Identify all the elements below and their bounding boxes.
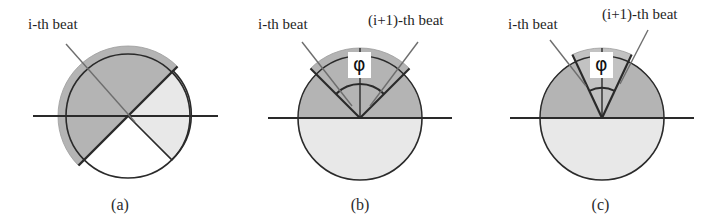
panel-a-drawing bbox=[0, 0, 240, 220]
label-i-th-beat-b: i-th beat bbox=[258, 16, 308, 33]
caption-c: (c) bbox=[480, 196, 721, 214]
label-i-plus-1-th-beat-c: (i+1)-th beat bbox=[602, 6, 678, 23]
light-half-sector-c bbox=[540, 118, 664, 180]
panel-a: i-th beat (a) bbox=[0, 0, 240, 220]
figure-beat-phase-diagrams: i-th beat (a) i-th beat bbox=[0, 0, 721, 220]
panel-b: i-th beat (i+1)-th beat φ (b) bbox=[240, 0, 480, 220]
angle-symbol-phi-c: φ bbox=[590, 52, 613, 78]
label-i-plus-1-th-beat-b: (i+1)-th beat bbox=[368, 12, 444, 29]
panel-b-drawing bbox=[240, 0, 480, 220]
label-i-th-beat-a: i-th beat bbox=[28, 16, 78, 33]
caption-a: (a) bbox=[0, 196, 240, 214]
light-half-sector-b bbox=[298, 118, 422, 180]
panel-c-drawing bbox=[480, 0, 721, 220]
panel-c: i-th beat (i+1)-th beat φ (c) bbox=[480, 0, 721, 220]
angle-symbol-phi-b: φ bbox=[348, 52, 371, 78]
caption-b: (b) bbox=[240, 196, 480, 214]
label-i-th-beat-c: i-th beat bbox=[508, 16, 558, 33]
